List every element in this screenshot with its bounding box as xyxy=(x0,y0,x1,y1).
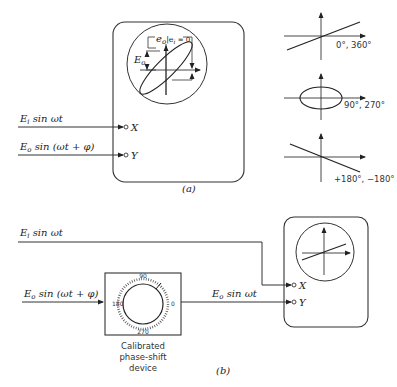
part-a: eo|ei = 0 Eo Ei sin ωt X Eo sin (ωt + φ)… xyxy=(18,13,395,194)
input-left-signal: Eo sin (ωt + φ) xyxy=(23,288,98,301)
device-caption-2: phase-shift xyxy=(119,352,167,362)
svg-text:+180°, −180°: +180°, −180° xyxy=(334,174,395,184)
phase-measurement-diagram: eo|ei = 0 Eo Ei sin ωt X Eo sin (ωt + φ)… xyxy=(0,0,397,387)
svg-text:0°, 360°: 0°, 360° xyxy=(336,40,372,50)
terminal-y-label: Y xyxy=(131,150,139,161)
terminal-x-b-label: X xyxy=(298,280,307,291)
part-b-label: (b) xyxy=(216,365,230,376)
terminal-y-a[interactable] xyxy=(124,153,128,157)
svg-text:90°, 270°: 90°, 270° xyxy=(344,100,385,110)
input-x-signal: Ei sin ωt xyxy=(19,113,64,126)
pattern-90-270: 90°, 270° xyxy=(284,74,385,120)
part-a-label: (a) xyxy=(182,183,196,194)
svg-text:270: 270 xyxy=(137,328,149,335)
pattern-0-360: 0°, 360° xyxy=(284,13,372,60)
part-b: Ei sin ωt Eo sin (ωt + φ) 90 180 0 270 C… xyxy=(18,217,368,376)
oscilloscope-b-body xyxy=(284,217,368,327)
svg-text:0: 0 xyxy=(171,300,175,307)
svg-text:90: 90 xyxy=(139,272,147,279)
terminal-y-b[interactable] xyxy=(292,300,296,304)
pattern-180: +180°, −180° xyxy=(284,134,395,184)
terminal-x-a[interactable] xyxy=(124,125,128,129)
device-caption-1: Calibrated xyxy=(121,341,165,351)
input-y-signal: Eo sin (ωt + φ) xyxy=(19,141,94,154)
output-signal: Eo sin ωt xyxy=(211,288,258,301)
terminal-x-label: X xyxy=(130,122,139,133)
annotation-eo-ei0: eo|ei = 0 xyxy=(156,33,190,46)
annotation-Eo: Eo xyxy=(133,54,146,67)
svg-text:180: 180 xyxy=(112,300,124,307)
device-caption-3: device xyxy=(129,363,157,373)
phase-dial[interactable]: 90 180 0 270 xyxy=(112,272,175,335)
terminal-y-b-label: Y xyxy=(299,297,307,308)
input-top-signal: Ei sin ωt xyxy=(19,227,64,240)
terminal-x-b[interactable] xyxy=(292,283,296,287)
